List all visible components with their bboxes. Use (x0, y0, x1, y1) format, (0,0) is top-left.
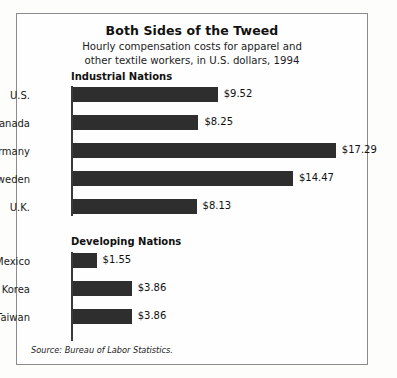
chart-frame: Both Sides of the Tweed Hourly compensat… (16, 13, 368, 365)
bar-mexico (73, 253, 97, 268)
bar-value-uk: $8.13 (203, 200, 232, 211)
table-row: U.S. $9.52 (17, 86, 367, 114)
table-row: Germany $17.29 (17, 142, 367, 170)
table-row: Canada $8.25 (17, 114, 367, 142)
table-row: Mexico $1.55 (17, 252, 367, 280)
table-row: Taiwan $3.86 (17, 308, 367, 336)
bar-group-developing: Mexico $1.55 Korea $3.86 Taiwan (17, 252, 367, 336)
bar-wrap-taiwan (73, 309, 132, 324)
bar-wrap-korea (73, 281, 132, 296)
bar-value-mexico: $1.55 (103, 254, 132, 265)
bar-label-sweden: Sweden (0, 174, 30, 185)
bar-label-mexico: Mexico (0, 256, 30, 267)
bar-label-germany: Germany (0, 146, 30, 157)
bar-value-us: $9.52 (224, 88, 253, 99)
chart-inner: Both Sides of the Tweed Hourly compensat… (17, 14, 367, 364)
bar-taiwan (73, 309, 132, 324)
bar-wrap-germany (73, 143, 336, 158)
table-row: Korea $3.86 (17, 280, 367, 308)
bar-wrap-uk (73, 199, 197, 214)
bar-wrap-canada (73, 115, 198, 130)
bar-value-germany: $17.29 (342, 144, 377, 155)
chart-page: Both Sides of the Tweed Hourly compensat… (0, 0, 397, 378)
bar-canada (73, 115, 198, 130)
bar-wrap-mexico (73, 253, 97, 268)
bar-label-korea: Korea (0, 284, 30, 295)
bar-value-korea: $3.86 (138, 282, 167, 293)
section-heading-industrial: Industrial Nations (71, 71, 172, 82)
bar-uk (73, 199, 197, 214)
bar-label-us: U.S. (0, 90, 30, 101)
bar-us (73, 87, 218, 102)
table-row: U.K. $8.13 (17, 198, 367, 226)
chart-subtitle-line-2: other textile workers, in U.S. dollars, … (17, 54, 367, 68)
bar-value-taiwan: $3.86 (138, 310, 167, 321)
source-note: Source: Bureau of Labor Statistics. (31, 345, 173, 355)
chart-subtitle-line-1: Hourly compensation costs for apparel an… (17, 40, 367, 54)
section-heading-developing: Developing Nations (71, 236, 181, 247)
bar-label-taiwan: Taiwan (0, 312, 30, 323)
bar-value-sweden: $14.47 (299, 172, 334, 183)
bar-group-industrial: U.S. $9.52 Canada $8.25 Germany (17, 86, 367, 226)
bar-label-canada: Canada (0, 118, 30, 129)
bar-sweden (73, 171, 293, 186)
bar-label-uk: U.K. (0, 202, 30, 213)
table-row: Sweden $14.47 (17, 170, 367, 198)
bar-germany (73, 143, 336, 158)
bar-value-canada: $8.25 (204, 116, 233, 127)
chart-title: Both Sides of the Tweed (17, 23, 367, 38)
bar-korea (73, 281, 132, 296)
chart-subtitle: Hourly compensation costs for apparel an… (17, 40, 367, 67)
bar-wrap-us (73, 87, 218, 102)
bar-wrap-sweden (73, 171, 293, 186)
